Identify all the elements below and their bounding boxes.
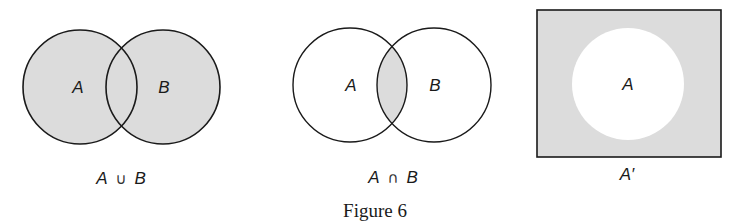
union-label-a: A	[71, 78, 83, 97]
union-expression: A ∪ B	[95, 169, 146, 188]
intersection-label-b: B	[429, 76, 440, 95]
intersection-expr-right: B	[406, 168, 417, 187]
intersection-diagram: A B A ∩ B	[293, 28, 491, 187]
union-symbol: ∪	[116, 170, 127, 188]
venn-figure: A B A ∪ B A B A ∩ B A A′ Figure 6	[0, 0, 743, 224]
complement-label-a: A	[621, 75, 633, 94]
intersection-expression: A ∩ B	[367, 168, 418, 187]
intersection-label-a: A	[344, 76, 356, 95]
union-expr-right: B	[134, 169, 145, 188]
complement-expression: A′	[619, 165, 635, 184]
union-label-b: B	[158, 78, 169, 97]
figure-caption: Figure 6	[343, 200, 407, 221]
complement-diagram: A A′	[537, 10, 721, 184]
intersection-symbol: ∩	[388, 169, 399, 187]
intersection-expr-left: A	[367, 168, 379, 187]
union-diagram: A B A ∪ B	[23, 30, 220, 188]
union-expr-left: A	[95, 169, 107, 188]
